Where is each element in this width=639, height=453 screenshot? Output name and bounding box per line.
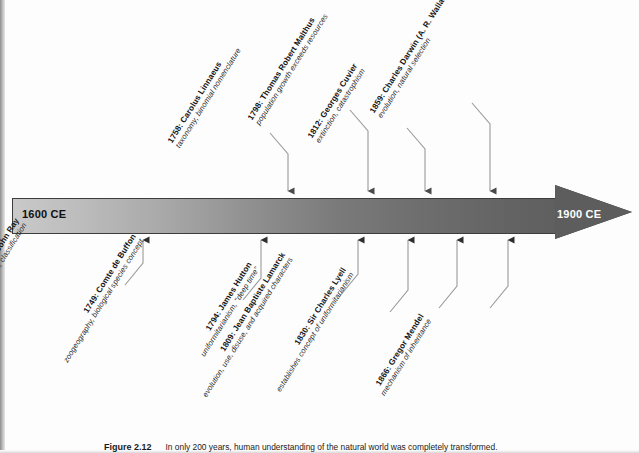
- event-label-1866: 1866: Gregor Mendel mechanism of inherit…: [337, 312, 434, 452]
- leader-1758: [270, 133, 288, 191]
- event-label-1798: 1798: Thomas Robert Malthus population g…: [246, 7, 330, 127]
- leader-1859: [472, 103, 490, 191]
- event-label-1859: 1859: Charles Darwin (A. R. Wallace) evo…: [368, 0, 461, 120]
- timeline-bar: [12, 198, 557, 234]
- event-label-1758: 1758: Carolus Linnaeus taxonomy, binomia…: [166, 42, 243, 150]
- event-desc: taxonomy, binomial nomenclature: [174, 47, 243, 150]
- event-label-1812: 1812: Georges Cuvier extinction, catastr…: [306, 62, 367, 145]
- event-desc: zoogeography, biological species concept: [11, 238, 146, 446]
- timeline-end-label: 1900 CE: [557, 208, 601, 220]
- event-label-1830: 1830: Sir Charles Lyell establishes conc…: [229, 266, 356, 453]
- event-label-1809: 1809: Jean Baptiste Lamarck evolution, u…: [155, 251, 295, 453]
- event-title: 1749: Comte de Buffon: [3, 232, 138, 441]
- figure-caption-text: In only 200 years, human understanding o…: [166, 442, 498, 452]
- timeline-arrow: 1600 CE 1900 CE: [12, 194, 632, 254]
- timeline-start-label: 1600 CE: [22, 208, 66, 220]
- figure-caption: Figure 2.12In only 200 years, human unde…: [104, 442, 634, 453]
- page-scan-edge-left: [0, 0, 5, 453]
- event-desc: uniformitarianism, "deep time": [148, 266, 262, 440]
- event-title: 1866: Gregor Mendel: [337, 312, 426, 447]
- event-label-1794: 1794: James Hutton uniformitarianism, "d…: [140, 260, 262, 439]
- leader-1798: [350, 110, 368, 191]
- event-title: 1809: Jean Baptiste Lamarck: [155, 251, 288, 453]
- event-title: 1798: Thomas Robert Malthus: [246, 7, 323, 122]
- event-desc: evolution, natural selection: [376, 0, 461, 120]
- event-title: 1812: Georges Cuvier: [306, 62, 360, 140]
- figure-number: Figure 2.12: [104, 442, 152, 452]
- leader-1812: [407, 128, 425, 191]
- event-desc: population growth exceeds resources: [254, 12, 330, 126]
- event-label-1749: 1749: Comte de Buffon zoogeography, biol…: [3, 232, 146, 445]
- event-title: 1758: Carolus Linnaeus: [166, 42, 236, 146]
- event-desc: mechanism of inheritance: [345, 317, 434, 451]
